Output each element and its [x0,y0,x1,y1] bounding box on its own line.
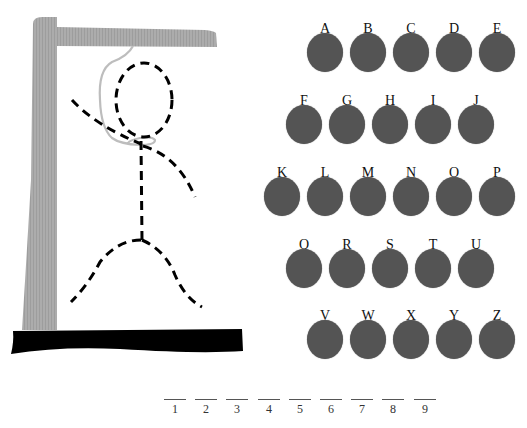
letter-button-t[interactable]: T [415,238,451,296]
rope [100,46,155,145]
letter-disc-icon[interactable] [458,249,494,288]
figure-head [116,63,172,137]
letter-button-l[interactable]: L [307,166,343,224]
slot-index: 1 [164,403,186,415]
figure-left-arm [72,100,141,144]
word-slot: 3 [226,395,248,421]
letter-disc-icon[interactable] [286,249,322,288]
letter-button-h[interactable]: H [372,94,408,152]
slot-index: 7 [351,403,373,415]
gallows-base [11,329,243,354]
letter-disc-icon[interactable] [458,105,494,144]
letter-disc-icon[interactable] [436,177,472,216]
letter-button-z[interactable]: Z [479,309,515,367]
word-slot: 1 [164,395,186,421]
letter-button-m[interactable]: M [350,166,386,224]
letter-button-c[interactable]: C [393,22,429,80]
letter-disc-icon[interactable] [329,105,365,144]
letter-button-i[interactable]: I [415,94,451,152]
letter-button-a[interactable]: A [307,22,343,80]
slot-index: 8 [382,403,404,415]
hangman-game: ABCDEFGHIJKLMNOPQRSTUVWXYZ 123456789 [0,0,527,428]
letter-disc-icon[interactable] [307,320,343,359]
slot-index: 9 [414,403,436,415]
letter-disc-icon[interactable] [350,33,386,72]
letter-disc-icon[interactable] [436,33,472,72]
letter-disc-icon[interactable] [286,105,322,144]
letter-disc-icon[interactable] [372,105,408,144]
slot-underline [320,399,342,400]
letter-button-f[interactable]: F [286,94,322,152]
letter-button-b[interactable]: B [350,22,386,80]
letter-button-q[interactable]: Q [286,238,322,296]
letter-disc-icon[interactable] [415,249,451,288]
gallows-post [22,17,57,330]
letter-disc-icon[interactable] [393,320,429,359]
word-slot: 8 [382,395,404,421]
letter-disc-icon[interactable] [479,33,515,72]
slot-underline [195,399,217,400]
slot-underline [414,399,436,400]
word-slot: 5 [289,395,311,421]
slot-index: 3 [226,403,248,415]
slot-underline [164,399,186,400]
letter-button-e[interactable]: E [479,22,515,80]
slot-underline [382,399,404,400]
word-slot: 7 [351,395,373,421]
letter-button-g[interactable]: G [329,94,365,152]
figure-right-arm [143,146,195,197]
slot-index: 6 [320,403,342,415]
letter-button-x[interactable]: X [393,309,429,367]
gallows-drawing [0,0,260,370]
figure-left-leg [71,240,141,302]
word-slot: 4 [258,395,280,421]
letter-button-v[interactable]: V [307,309,343,367]
letter-button-j[interactable]: J [458,94,494,152]
letter-button-r[interactable]: R [329,238,365,296]
slot-underline [226,399,248,400]
letter-button-w[interactable]: W [350,309,386,367]
slot-index: 5 [289,403,311,415]
letter-disc-icon[interactable] [307,177,343,216]
slot-underline [289,399,311,400]
letter-disc-icon[interactable] [479,320,515,359]
letter-disc-icon[interactable] [436,320,472,359]
letter-button-k[interactable]: K [264,166,300,224]
letter-disc-icon[interactable] [307,33,343,72]
letter-disc-icon[interactable] [393,177,429,216]
letter-button-s[interactable]: S [372,238,408,296]
figure-right-leg [142,240,202,307]
word-slot: 9 [414,395,436,421]
word-slot: 6 [320,395,342,421]
slot-index: 4 [258,403,280,415]
letter-button-u[interactable]: U [458,238,494,296]
letter-disc-icon[interactable] [329,249,365,288]
slot-underline [351,399,373,400]
figure-body [141,141,142,240]
letter-disc-icon[interactable] [479,177,515,216]
slot-index: 2 [195,403,217,415]
letter-button-o[interactable]: O [436,166,472,224]
slot-underline [258,399,280,400]
letter-disc-icon[interactable] [393,33,429,72]
letter-disc-icon[interactable] [350,320,386,359]
word-slot: 2 [195,395,217,421]
gallows-beam [57,27,217,47]
letter-disc-icon[interactable] [264,177,300,216]
letter-disc-icon[interactable] [350,177,386,216]
letter-button-n[interactable]: N [393,166,429,224]
letter-button-p[interactable]: P [479,166,515,224]
letter-disc-icon[interactable] [415,105,451,144]
letter-button-d[interactable]: D [436,22,472,80]
letter-button-y[interactable]: Y [436,309,472,367]
letter-disc-icon[interactable] [372,249,408,288]
